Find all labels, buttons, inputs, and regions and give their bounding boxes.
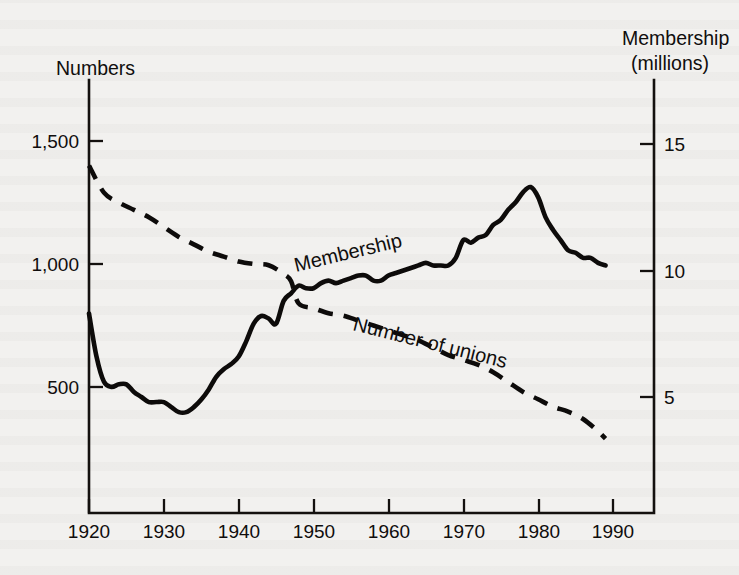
left-y-ticklabel-500: 500 [47, 377, 79, 398]
right-y-ticklabel-10: 10 [664, 261, 685, 282]
x-ticklabel-1930: 1930 [143, 521, 185, 542]
x-ticks [89, 499, 613, 513]
x-ticklabel-1980: 1980 [518, 521, 560, 542]
axis-frame [89, 80, 654, 513]
left-y-ticklabel-1000: 1,000 [31, 254, 79, 275]
x-ticklabel-1960: 1960 [368, 521, 410, 542]
right-axis-title-line1: Membership [622, 27, 729, 49]
x-ticklabel-1950: 1950 [293, 521, 335, 542]
chart-figure: Numbers Membership (millions) 1,500 1,00… [0, 0, 739, 575]
right-y-ticks [640, 144, 654, 397]
left-axis-title: Numbers [56, 57, 135, 79]
right-y-ticklabel-5: 5 [664, 387, 675, 408]
x-ticklabel-1920: 1920 [68, 521, 110, 542]
union-membership-line-chart: Numbers Membership (millions) 1,500 1,00… [0, 0, 739, 575]
series-line-number-of-unions [89, 166, 606, 439]
right-y-ticklabel-15: 15 [664, 134, 685, 155]
right-axis-title-line2: (millions) [631, 52, 709, 74]
left-y-ticklabel-1500: 1,500 [31, 131, 79, 152]
x-ticklabel-1940: 1940 [218, 521, 260, 542]
x-ticklabel-1990: 1990 [592, 521, 634, 542]
series-line-membership [89, 187, 606, 413]
x-ticklabel-1970: 1970 [443, 521, 485, 542]
series-label-number-of-unions: Number of unions [351, 313, 510, 373]
series-label-membership: Membership [292, 229, 404, 276]
